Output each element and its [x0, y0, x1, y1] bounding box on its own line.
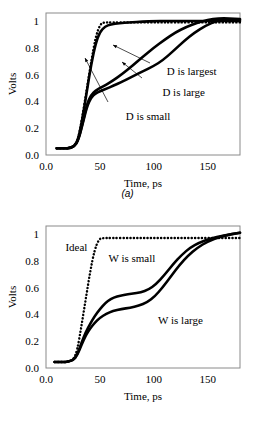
y-tick-label: 1 — [34, 228, 40, 240]
y-tick-label: 1 — [34, 15, 40, 27]
y-tick-label: 0.2 — [25, 122, 39, 134]
y-tick-label: 0.4 — [25, 308, 39, 320]
plot-frame — [46, 13, 240, 155]
x-tick-label: 100 — [146, 373, 163, 385]
figure-container: 0.00.20.40.60.810.050100150VoltsTime, ps… — [0, 0, 255, 426]
y-axis-title: Volts — [6, 286, 18, 308]
annotation-label: D is largest — [167, 65, 217, 77]
x-tick-label: 150 — [199, 160, 216, 172]
chart-a-svg: 0.00.20.40.60.810.050100150VoltsTime, ps… — [0, 0, 255, 213]
y-tick-label: 0.8 — [25, 255, 39, 267]
chart-panel-a: 0.00.20.40.60.810.050100150VoltsTime, ps… — [0, 0, 255, 213]
x-tick-label: 150 — [199, 373, 216, 385]
x-tick-label: 0.0 — [39, 373, 53, 385]
x-tick-label: 0.0 — [39, 160, 53, 172]
series-d-is-small — [57, 21, 240, 148]
y-tick-label: 0.6 — [25, 69, 39, 81]
y-tick-label: 0.8 — [25, 42, 39, 54]
y-tick-label: 0.4 — [25, 95, 39, 107]
x-tick-label: 100 — [146, 160, 163, 172]
annotation-label: D is large — [162, 86, 205, 98]
chart-panel-b: 0.00.20.40.60.810.050100150VoltsTime, ps… — [0, 213, 255, 426]
y-tick-label: 0.0 — [25, 149, 39, 161]
x-tick-label: 50 — [94, 160, 106, 172]
annotation-label: D is small — [126, 110, 171, 122]
y-tick-label: 0.0 — [25, 362, 39, 374]
x-axis-title: Time, ps — [124, 390, 162, 402]
annotation-label: W is small — [109, 252, 156, 264]
subfigure-label-a: (a) — [0, 188, 255, 199]
series-ideal — [57, 22, 240, 148]
x-tick-label: 50 — [94, 373, 106, 385]
y-tick-label: 0.6 — [25, 282, 39, 294]
annotation-label: Ideal — [65, 241, 87, 253]
series-d-is-largest — [57, 19, 240, 148]
annotation-label: W is large — [158, 314, 203, 326]
series-d-is-large — [57, 18, 240, 148]
y-axis-title: Volts — [6, 73, 18, 95]
chart-b-svg: 0.00.20.40.60.810.050100150VoltsTime, ps… — [0, 213, 255, 426]
y-tick-label: 0.2 — [25, 335, 39, 347]
